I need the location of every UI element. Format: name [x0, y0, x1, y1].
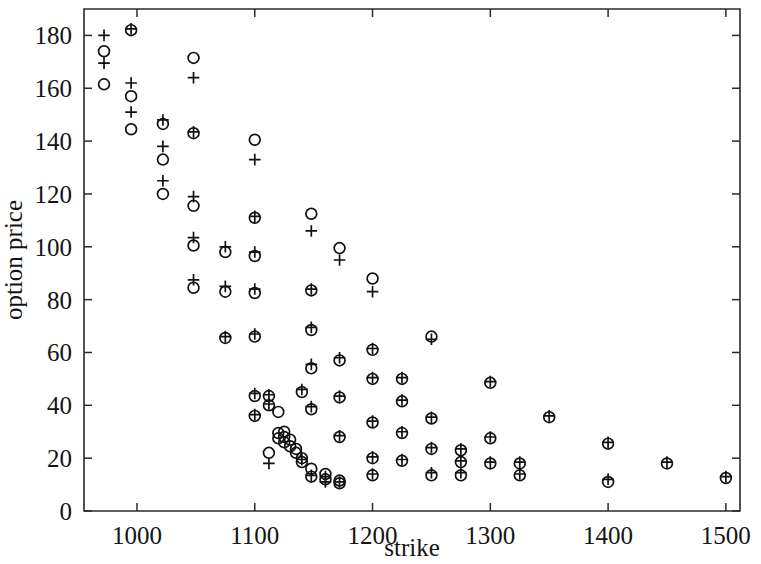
data-point-plus: [220, 281, 232, 293]
data-point-plus: [334, 352, 346, 364]
data-point-circle: [264, 447, 275, 458]
data-point-plus: [125, 77, 137, 89]
x-tick-label: 1300: [465, 522, 515, 549]
axis-frame: [84, 9, 740, 511]
data-point-plus: [306, 359, 318, 371]
y-tick-label: 0: [60, 498, 73, 525]
data-point-plus: [334, 254, 346, 266]
x-tick-label: 1000: [112, 522, 162, 549]
data-point-plus: [220, 241, 232, 253]
scatter-plot-figure: 100011001200130014001500 020406080100120…: [0, 0, 761, 564]
data-point-plus: [367, 286, 379, 298]
data-point-plus: [157, 114, 169, 126]
data-point-circle: [249, 134, 260, 145]
plot-canvas: 100011001200130014001500 020406080100120…: [0, 0, 761, 564]
x-axis-title: strike: [384, 534, 440, 561]
data-point-plus: [188, 72, 200, 84]
data-point-plus: [249, 246, 261, 258]
data-point-circle: [306, 208, 317, 219]
y-tick-label: 60: [47, 339, 72, 366]
data-point-plus: [306, 225, 318, 237]
data-point-circle: [334, 243, 345, 254]
data-point-circle: [273, 407, 284, 418]
y-tick-label: 100: [35, 234, 73, 261]
data-point-plus: [98, 57, 110, 69]
data-point-plus: [426, 333, 438, 345]
x-tick-label: 1500: [701, 522, 751, 549]
x-tick-label: 1400: [583, 522, 633, 549]
data-point-circle: [126, 91, 137, 102]
y-tick-label: 40: [47, 392, 72, 419]
data-point-plus: [157, 141, 169, 153]
data-point-circle: [99, 46, 110, 57]
data-point-plus: [249, 328, 261, 340]
data-point-circle: [367, 273, 378, 284]
data-point-plus: [602, 473, 614, 485]
data-point-circle: [99, 79, 110, 90]
x-tick-label: 1100: [230, 522, 279, 549]
series-model-price-markers: [98, 23, 731, 488]
data-point-plus: [455, 467, 467, 479]
axis-box: [84, 9, 740, 511]
data-point-plus: [306, 322, 318, 334]
data-point-plus: [98, 30, 110, 42]
data-point-plus: [306, 401, 318, 413]
y-tick-label: 160: [35, 75, 73, 102]
y-tick-label: 140: [35, 128, 73, 155]
data-point-circle: [188, 52, 199, 63]
y-axis-title: option price: [0, 200, 27, 320]
data-point-plus: [125, 106, 137, 118]
data-point-circle: [158, 189, 169, 200]
data-point-plus: [157, 175, 169, 187]
data-point-plus: [249, 283, 261, 295]
data-point-plus: [188, 191, 200, 203]
data-point-plus: [426, 467, 438, 479]
data-point-plus: [249, 388, 261, 400]
y-axis-ticks: 020406080100120140160180: [35, 22, 741, 525]
data-point-circle: [126, 124, 137, 135]
y-tick-label: 180: [35, 22, 73, 49]
data-point-plus: [249, 154, 261, 166]
y-tick-label: 80: [47, 287, 72, 314]
data-point-plus: [296, 384, 308, 396]
data-point-circle: [158, 154, 169, 165]
y-tick-label: 20: [47, 445, 72, 472]
series-market-price-markers: [99, 25, 732, 489]
data-point-plus: [263, 458, 275, 470]
y-tick-label: 120: [35, 181, 73, 208]
